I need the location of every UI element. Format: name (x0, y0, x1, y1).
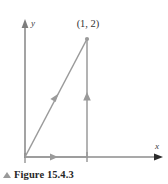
vertex-point-label: (1, 2) (77, 18, 100, 30)
plot-area: y x 1 (0, 0, 168, 166)
diagonal-direction-arrowhead-icon (50, 94, 58, 103)
figure-container: y x 1 (0, 0, 168, 184)
y-axis-arrowhead-icon (22, 19, 29, 28)
vertex-point-marker (85, 37, 89, 41)
horizontal-direction-arrowhead-icon (50, 153, 58, 160)
triangle-up-icon (3, 172, 11, 178)
y-axis-label: y (30, 18, 35, 28)
x-tick-label-1: 1 (85, 165, 90, 166)
figure-caption: Figure 15.4.3 (3, 167, 163, 182)
vertical-direction-arrowhead-icon (83, 92, 91, 101)
figure-caption-text: Figure 15.4.3 (14, 169, 74, 180)
x-axis-label: x (154, 141, 159, 151)
coordinate-plot: y x 1 (0, 0, 168, 166)
x-axis-arrowhead-icon (154, 154, 163, 161)
